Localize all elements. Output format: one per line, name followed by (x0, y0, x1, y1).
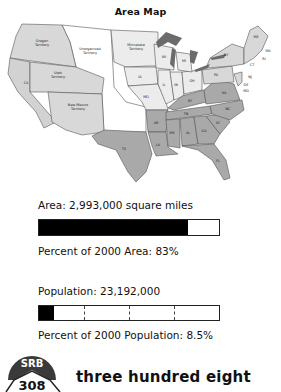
svg-text:NJ: NJ (248, 75, 252, 79)
svg-text:MA: MA (265, 49, 271, 53)
svg-text:GA: GA (202, 129, 208, 133)
tick-75 (174, 306, 175, 320)
population-bar-fill (39, 306, 54, 320)
tick-25 (84, 306, 85, 320)
area-label: Area: 2,993,000 square miles (38, 199, 193, 211)
svg-text:LA: LA (156, 143, 161, 147)
svg-text:MI: MI (182, 59, 186, 63)
svg-text:AR: AR (154, 121, 159, 125)
svg-text:MO: MO (143, 95, 149, 99)
badge-srb-text: SRB (21, 358, 44, 369)
svg-text:MS: MS (169, 131, 174, 135)
svg-text:PA: PA (214, 73, 219, 77)
svg-text:Territory: Territory (128, 47, 143, 51)
svg-text:NC: NC (226, 107, 232, 111)
svg-text:Territory: Territory (34, 43, 49, 47)
svg-text:WI: WI (162, 55, 166, 59)
population-percent-label: Percent of 2000 Population: 8.5% (38, 329, 213, 341)
area-percent-label: Percent of 2000 Area: 83% (38, 245, 179, 257)
svg-text:IN: IN (174, 83, 178, 87)
population-label: Population: 23,192,000 (38, 285, 160, 297)
area-map: OregonTerritory UnorganizedTerritory Min… (6, 22, 278, 187)
page-number-words: three hundred eight (76, 368, 251, 386)
svg-text:ME: ME (253, 35, 258, 39)
srb-badge: SRB 308 (4, 350, 64, 392)
area-bar-fill (39, 220, 188, 235)
svg-text:CA: CA (24, 81, 29, 85)
svg-text:VA: VA (222, 91, 227, 95)
population-bar (38, 305, 220, 321)
map-title: Area Map (0, 6, 281, 17)
svg-text:IL: IL (163, 83, 166, 87)
svg-text:FL: FL (216, 159, 220, 163)
svg-text:RI: RI (262, 57, 265, 61)
svg-text:CT: CT (250, 63, 255, 67)
svg-text:OH: OH (189, 79, 195, 83)
area-bar (38, 219, 220, 236)
svg-text:SC: SC (216, 121, 221, 125)
svg-text:AL: AL (186, 131, 190, 135)
svg-text:Territory: Territory (70, 107, 85, 111)
svg-text:Territory: Territory (82, 51, 97, 55)
page-number: 308 (18, 378, 45, 392)
svg-text:DE: DE (244, 83, 249, 87)
svg-text:TX: TX (121, 147, 127, 151)
svg-text:MD: MD (243, 89, 249, 93)
svg-text:TN: TN (183, 112, 189, 116)
svg-text:Territory: Territory (50, 75, 65, 79)
tick-50 (129, 306, 130, 320)
